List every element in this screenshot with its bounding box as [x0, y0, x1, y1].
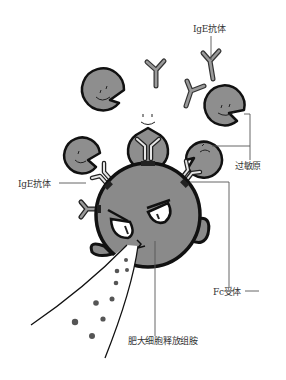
- mast-cell-diagram: [0, 0, 286, 380]
- allergen-bound-left: [64, 137, 100, 173]
- label-mast-cell-releases-histamine: 肥大细胞释放组胺: [128, 334, 198, 347]
- label-ige-antibody-left: IgE抗体: [18, 177, 50, 190]
- label-ige-antibody-top: IgE抗体: [193, 22, 225, 35]
- fc-receptor-top: [141, 161, 155, 166]
- free-ige-antibody-3: [186, 81, 204, 106]
- label-fc-receptor: Fc受体: [213, 285, 241, 298]
- fc-receptor-left-lower: [97, 205, 101, 213]
- allergen-free-right: [205, 85, 245, 125]
- label-allergen: 过敏原: [235, 159, 261, 172]
- histamine-spray: [31, 245, 138, 358]
- free-ige-antibody-1: [147, 61, 164, 86]
- allergen-free-left: [82, 68, 124, 110]
